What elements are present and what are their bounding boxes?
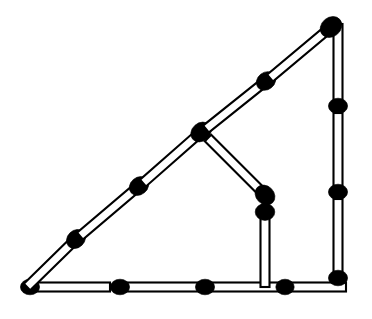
match-head-icon: [110, 279, 129, 295]
match-head-icon: [328, 98, 347, 114]
match-stick-body: [334, 199, 343, 278]
match-head-icon: [328, 270, 347, 286]
match-head-icon: [328, 184, 347, 200]
match-stick-body: [205, 283, 283, 292]
match-bottom-2[interactable]: [110, 279, 198, 295]
match-stick-body: [30, 283, 110, 292]
match-stick-body: [334, 24, 343, 106]
match-head-icon: [276, 279, 294, 295]
match-stick-body: [120, 283, 198, 292]
match-group-bottom-edge: [20, 279, 346, 295]
match-head-icon: [255, 204, 275, 221]
matchstick-canvas: [0, 0, 372, 319]
canvas-background: [0, 0, 372, 319]
match-head-icon: [195, 279, 214, 295]
match-stick-body: [334, 113, 343, 192]
match-stick-body: [261, 212, 270, 287]
matchstick-figure-root: Matchstick Puzzle Figure A line drawing …: [0, 0, 372, 319]
